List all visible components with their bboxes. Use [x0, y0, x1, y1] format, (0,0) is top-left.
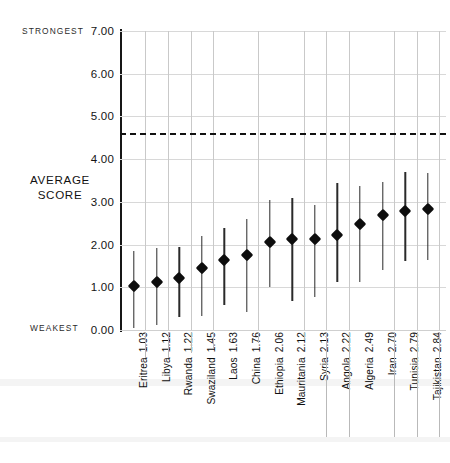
y-tick-label: 4.00 — [70, 153, 114, 165]
error-bar — [359, 186, 360, 282]
gridline-y — [120, 330, 446, 331]
x-tick-label: Tajikistan2.84 — [432, 332, 443, 400]
x-tick-value: 2.06 — [274, 332, 285, 352]
data-point-marker — [308, 233, 321, 246]
x-tick-label: Tunisia2.79 — [409, 332, 420, 390]
error-bar — [314, 205, 315, 297]
x-tick-value: 2.84 — [432, 332, 443, 352]
category-separator — [326, 332, 327, 437]
x-tick-category: Tunisia — [409, 357, 420, 390]
x-tick-category: Iran — [387, 357, 398, 375]
x-tick-value: 2.12 — [296, 332, 307, 352]
y-tick-label: 5.00 — [70, 110, 114, 122]
data-point-marker — [354, 217, 367, 230]
x-tick-value: 1.63 — [228, 332, 239, 352]
chart-root: STRONGEST WEAKEST AVERAGE SCORE 0.001.00… — [0, 0, 450, 463]
x-tick-value: 1.76 — [251, 332, 262, 352]
error-bar — [382, 182, 383, 270]
x-tick-category: Angola — [341, 357, 352, 389]
x-tick-value: 2.79 — [409, 332, 420, 352]
y-tick-label: 1.00 — [70, 281, 114, 293]
category-separator — [168, 332, 169, 358]
data-point-marker — [376, 208, 389, 221]
y-tick-label: 2.00 — [70, 239, 114, 251]
error-bar — [224, 228, 225, 305]
x-tick-category: Rwanda — [183, 357, 194, 395]
category-separator — [191, 332, 192, 353]
error-bar — [201, 236, 202, 316]
data-point-marker — [331, 229, 344, 242]
data-point-marker — [263, 236, 276, 249]
x-tick-value: 1.45 — [206, 332, 217, 352]
x-tick-label: Eritrea1.03 — [138, 332, 149, 388]
category-separator — [258, 332, 259, 343]
data-point-marker — [128, 280, 141, 293]
x-tick-category: Libya — [161, 357, 172, 382]
data-point-marker — [286, 233, 299, 246]
plot-area — [120, 31, 446, 330]
data-point-marker — [218, 254, 231, 267]
data-point-marker — [195, 262, 208, 275]
data-point-marker — [173, 272, 186, 285]
error-bar — [246, 219, 247, 312]
data-point-marker — [399, 204, 412, 217]
category-separator — [394, 332, 395, 437]
x-tick-category: Algeria — [364, 357, 375, 389]
x-tick-category: Ethiopia — [274, 357, 285, 395]
category-separator — [304, 332, 305, 340]
x-tick-value: 2.49 — [364, 332, 375, 352]
y-axis-tick-labels: 0.001.002.003.004.005.006.007.00 — [66, 31, 114, 330]
x-tick-category: Eritrea — [138, 357, 149, 388]
x-tick-category: Tajikistan — [432, 357, 443, 400]
x-tick-label: China1.76 — [251, 332, 262, 384]
data-point-marker — [150, 276, 163, 289]
x-tick-value: 1.12 — [161, 332, 172, 352]
x-tick-value: 1.22 — [183, 332, 194, 352]
category-separator — [349, 332, 350, 437]
x-tick-value: 1.03 — [138, 332, 149, 352]
category-separator — [417, 332, 418, 437]
x-tick-label: Syria2.13 — [319, 332, 330, 381]
error-bar — [427, 173, 428, 260]
x-tick-label: Ethiopia2.06 — [274, 332, 285, 395]
x-tick-value: 2.70 — [387, 332, 398, 352]
data-point-marker — [421, 202, 434, 215]
data-point-marker — [241, 248, 254, 261]
y-tick-label: 3.00 — [70, 196, 114, 208]
x-tick-category: Swaziland — [206, 357, 217, 404]
x-tick-label: Algeria2.49 — [364, 332, 375, 390]
error-bar — [291, 198, 292, 301]
category-separator — [213, 332, 214, 348]
x-tick-category: Laos — [228, 357, 239, 380]
x-tick-label: Libya1.12 — [161, 332, 172, 382]
x-tick-label: Angola2.22 — [341, 332, 352, 390]
x-tick-label: Rwanda1.22 — [183, 332, 194, 395]
x-tick-label: Swaziland1.45 — [206, 332, 217, 405]
x-tick-value: 2.13 — [319, 332, 330, 352]
y-tick-label: 0.00 — [70, 324, 114, 336]
x-tick-label: Iran2.70 — [387, 332, 398, 375]
x-axis-category-labels: Eritrea1.03Libya1.12Rwanda1.22Swaziland1… — [120, 332, 446, 460]
y-tick-label: 7.00 — [70, 25, 114, 37]
x-tick-category: Syria — [319, 357, 330, 381]
x-tick-value: 2.22 — [341, 332, 352, 352]
y-tick-label: 6.00 — [70, 68, 114, 80]
category-separator — [439, 332, 440, 437]
x-tick-label: Laos1.63 — [228, 332, 239, 380]
series-points — [120, 31, 446, 330]
x-tick-label: Mauritania2.12 — [296, 332, 307, 406]
x-tick-category: China — [251, 357, 262, 384]
category-separator — [145, 332, 146, 358]
x-tick-category: Mauritania — [296, 357, 307, 406]
